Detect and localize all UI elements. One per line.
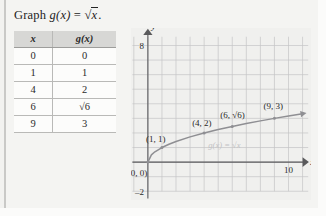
values-table: x g(x) 0 0 1 1 4 2 6 √6 9 3 <box>14 31 116 133</box>
cell-gx: 2 <box>53 82 117 99</box>
table-row: 9 3 <box>14 116 116 133</box>
cell-gx: 3 <box>53 116 117 133</box>
header-x: x <box>14 31 53 48</box>
cell-gx: 1 <box>53 65 117 82</box>
table-row: 6 √6 <box>14 99 116 116</box>
table-header-row: x g(x) <box>14 31 116 48</box>
data-point <box>146 161 149 164</box>
data-point-label: (9, 3) <box>263 101 283 111</box>
x-tick-label: 10 <box>284 165 294 175</box>
cell-x: 6 <box>14 99 53 116</box>
data-point-label: (0, 0) <box>131 168 147 178</box>
y-tick-label: 8 <box>139 41 144 51</box>
cell-x: 9 <box>14 116 53 133</box>
data-point-label: (1, 1) <box>146 134 166 144</box>
problem-prompt: Graph g(x) = √x. <box>14 8 102 23</box>
y-axis-label: y <box>150 28 155 31</box>
cell-gx: 0 <box>53 48 117 65</box>
cell-x: 0 <box>14 48 53 65</box>
data-point <box>203 131 206 134</box>
prompt-prefix: Graph <box>14 8 50 22</box>
prompt-radical: √x <box>84 8 98 23</box>
cell-x: 4 <box>14 82 53 99</box>
prompt-function: g(x) <box>50 8 71 22</box>
data-point <box>273 117 276 120</box>
y-tick-label: –2 <box>134 187 144 197</box>
x-axis-label: x <box>309 157 311 167</box>
cell-gx: √6 <box>53 99 117 116</box>
data-point-label: (4, 2) <box>192 118 212 128</box>
prompt-equals: = <box>71 8 85 22</box>
table-row: 0 0 <box>14 48 116 65</box>
paper-bottom-edge <box>0 208 326 216</box>
cell-x: 1 <box>14 65 53 82</box>
graph-panel: xy8–210g(x) = √x(0, 0)(1, 1)(4, 2)(6, √6… <box>131 28 311 200</box>
data-point <box>231 125 234 128</box>
data-point <box>160 146 163 149</box>
data-point-label: (6, √6) <box>220 110 244 120</box>
function-expression-label: g(x) = √x <box>208 140 240 150</box>
header-gx: g(x) <box>53 31 117 48</box>
table-row: 4 2 <box>14 82 116 99</box>
coordinate-plane: xy8–210g(x) = √x(0, 0)(1, 1)(4, 2)(6, √6… <box>131 28 311 200</box>
prompt-suffix: . <box>98 8 101 22</box>
paper-right-edge <box>318 0 326 216</box>
worked-example-figure: Graph g(x) = √x. x g(x) 0 0 1 1 4 2 6 <box>0 0 326 216</box>
table-row: 1 1 <box>14 65 116 82</box>
